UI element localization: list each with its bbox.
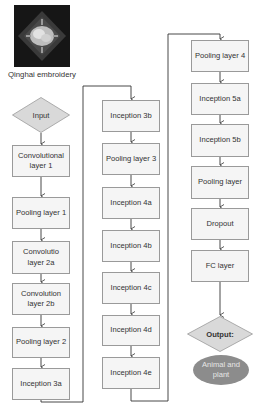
node-pool1: Pooling layer 1 — [12, 197, 70, 229]
input-label: Input — [33, 111, 50, 120]
image-caption: Qinghai embroidery — [6, 70, 78, 80]
node-inception-4a: Inception 4a — [102, 187, 160, 219]
node-conv2b: Convolution layer 2b — [12, 283, 70, 315]
node-fc-layer: FC layer — [191, 250, 249, 282]
node-inception-4c: Inception 4c — [102, 272, 160, 304]
node-inception-4b: Inception 4b — [102, 230, 160, 262]
node-inception-5b: Inception 5b — [191, 124, 249, 157]
input-node: Input — [12, 97, 70, 133]
node-pool3: Pooling layer 3 — [102, 143, 160, 175]
node-dropout: Dropout — [191, 208, 249, 240]
embroidery-image — [14, 5, 70, 67]
result-node: Animal and plant — [193, 355, 249, 385]
node-pooling-layer: Pooling layer — [191, 166, 249, 199]
node-inception-4e: Inception 4e — [102, 357, 160, 389]
node-inception-4d: Inception 4d — [102, 315, 160, 346]
node-pool4: Pooling layer 4 — [191, 40, 249, 72]
node-pool2: Pooling layer 2 — [12, 327, 70, 358]
node-conv2a: Convolutio layer 2a — [12, 241, 70, 274]
output-node: Output: — [187, 316, 253, 352]
node-inception-5a: Inception 5a — [191, 83, 249, 115]
node-inception-3a: Inception 3a — [12, 368, 70, 400]
node-inception-3b: Inception 3b — [102, 100, 160, 132]
embroidery-photo-icon — [14, 5, 70, 67]
result-label: Animal and plant — [201, 360, 241, 380]
output-label: Output: — [206, 330, 233, 339]
node-conv1: Convolutional layer 1 — [12, 145, 70, 177]
